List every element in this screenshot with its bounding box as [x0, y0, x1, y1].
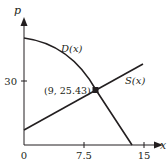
supply-label: S(x) [125, 75, 145, 86]
supply-line [24, 64, 143, 130]
intersection-label: (9, 25.43) [44, 85, 91, 96]
y-tick-label-30: 30 [4, 76, 17, 87]
y-axis-label: p [14, 4, 21, 17]
intersection-marker [93, 87, 99, 93]
y-axis-arrow-icon [21, 17, 28, 26]
x-tick-label-15: 15 [138, 150, 151, 161]
x-tick-label-0: 0 [21, 150, 27, 161]
x-tick-label-7.5: 7.5 [76, 150, 92, 161]
demand-label: D(x) [60, 43, 83, 54]
x-axis-label: x [160, 139, 167, 152]
chart: p x 0 7.5 15 30 D(x) S(x) (9, 25.43) [0, 0, 167, 166]
